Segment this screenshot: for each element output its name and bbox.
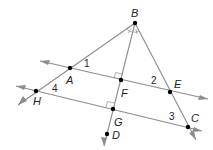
angle-label-1: 1 (84, 58, 90, 69)
point-g (111, 107, 115, 111)
label-e: E (174, 78, 182, 90)
arrow-left-icon (40, 60, 50, 65)
label-f: F (121, 87, 129, 99)
point-h (34, 89, 38, 93)
label-d: D (112, 129, 120, 141)
point-e (168, 90, 172, 94)
arrow-down-right-icon (189, 131, 196, 140)
point-f (119, 78, 123, 82)
angle-label-3: 3 (169, 111, 175, 122)
point-d (105, 132, 109, 136)
angle-label-2: 2 (151, 75, 157, 86)
angle-label-4: 4 (52, 83, 58, 94)
label-b: B (131, 7, 138, 19)
point-a (68, 66, 72, 70)
geometry-diagram: B A F E H G C D 1 2 3 4 (0, 0, 213, 150)
angle-arc-fbe (133, 31, 139, 32)
arrow-down-icon (101, 137, 107, 146)
point-c (186, 125, 190, 129)
arrow-left-icon (16, 85, 26, 90)
label-c: C (191, 112, 199, 124)
angle-tick-fbe (136, 29, 137, 34)
label-h: H (33, 95, 41, 107)
arrow-right-icon (198, 95, 208, 100)
point-b (133, 21, 137, 25)
label-a: A (65, 74, 73, 86)
label-g: G (114, 116, 123, 128)
arrow-down-left-icon (18, 96, 27, 105)
right-angle-mark-g (106, 102, 115, 108)
